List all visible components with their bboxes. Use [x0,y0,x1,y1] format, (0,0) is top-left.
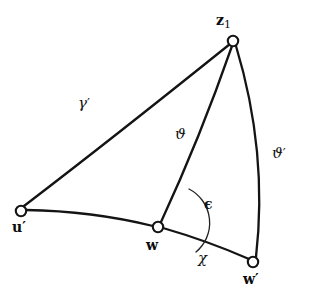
vertex-label-w-prime-main: w [243,271,255,287]
vertex-node-u-prime [16,206,26,216]
edge-label-chi: χ [198,251,207,266]
edge-label-theta-prime-prime: ′ [283,146,286,161]
edge-label-theta: ϑ [175,127,186,142]
edge-label-gamma-prime-prime: ′ [87,96,90,111]
vertex-label-w-prime: w′ [243,272,259,286]
arc-base-u-prime-to-w [26,210,153,226]
edge-label-theta-glyph: ϑ [175,125,186,143]
vertex-label-u-prime-prime: ′ [22,219,26,235]
vertex-label-w-prime-prime: ′ [255,271,259,287]
vertex-node-z1 [228,36,238,46]
angle-label-epsilon-glyph: ϵ [204,196,213,212]
vertex-node-w [153,222,163,232]
vertex-label-z1-main: z [216,12,224,28]
vertex-label-w: w [146,238,158,252]
edge-label-gamma-prime: γ′ [78,96,90,111]
vertex-label-z1-subscript: 1 [224,18,231,31]
edge-label-theta-prime: ϑ′ [272,146,286,161]
vertex-node-w-prime [248,257,258,267]
vertex-label-w-main: w [146,237,158,253]
vertex-label-u-prime-main: u [12,219,22,235]
arc-gamma-prime-u-to-z1 [24,44,230,206]
vertex-label-z1: z1 [216,13,231,30]
edge-label-chi-glyph: χ [198,249,207,267]
spherical-triangle-diagram: z1 u′ w w′ γ′ ϑ ϑ′ ϵ χ [0,0,312,303]
vertex-label-u-prime: u′ [12,220,26,234]
edge-label-theta-prime-glyph: ϑ [272,144,283,162]
arc-theta-w-to-z1 [161,46,232,222]
arc-theta-prime-z1-to-w-prime [236,46,259,257]
angle-label-epsilon: ϵ [204,197,213,211]
edge-label-gamma-prime-glyph: γ [78,94,87,112]
diagram-canvas [0,0,312,303]
